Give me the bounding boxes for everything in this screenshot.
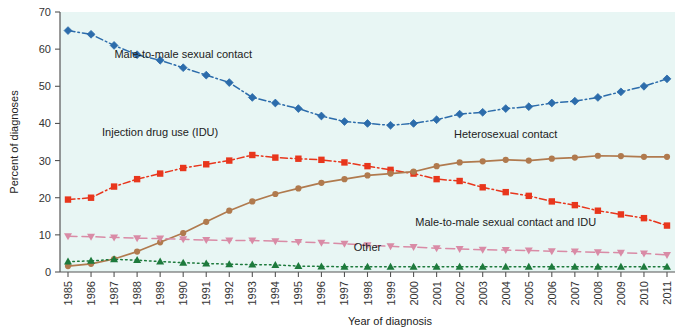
x-tick-label: 1997: [338, 281, 350, 305]
data-point-marker: [618, 153, 624, 159]
x-tick-label: 1991: [200, 281, 212, 305]
x-tick-label: 2005: [523, 281, 535, 305]
chart-figure: 010203040506070 198519861987198819891990…: [0, 0, 685, 331]
data-point-marker: [572, 202, 578, 208]
data-point-marker: [456, 178, 462, 184]
data-point-marker: [641, 154, 647, 160]
y-tick-label: 0: [45, 266, 51, 278]
data-point-marker: [479, 184, 485, 190]
x-tick-label: 2010: [638, 281, 650, 305]
x-tick-label: 2004: [500, 281, 512, 305]
data-point-marker: [549, 156, 555, 162]
data-point-marker: [641, 215, 647, 221]
x-tick-label: 1994: [269, 281, 281, 305]
x-tick-label: 1995: [292, 281, 304, 305]
data-point-marker: [203, 219, 209, 225]
y-tick-label: 10: [39, 229, 51, 241]
data-point-marker: [134, 176, 140, 182]
y-tick-label: 70: [39, 6, 51, 18]
data-point-marker: [134, 248, 140, 254]
series-label-0: Male-to-male sexual contact: [114, 48, 252, 60]
x-tick-label: 2009: [615, 281, 627, 305]
data-point-marker: [295, 156, 301, 162]
x-tick-label: 2011: [661, 281, 673, 305]
x-tick-label: 2002: [454, 281, 466, 305]
x-tick-label: 1989: [154, 281, 166, 305]
y-tick-label: 30: [39, 155, 51, 167]
data-point-marker: [318, 157, 324, 163]
data-point-marker: [503, 157, 509, 163]
data-point-marker: [572, 155, 578, 161]
series-label-4: Other: [354, 241, 382, 253]
data-point-marker: [226, 157, 232, 163]
data-point-marker: [526, 157, 532, 163]
data-point-marker: [272, 154, 278, 160]
data-point-marker: [664, 222, 670, 228]
data-point-marker: [457, 159, 463, 165]
x-tick-label: 2007: [569, 281, 581, 305]
line-chart-canvas: 010203040506070 198519861987198819891990…: [0, 0, 685, 331]
x-tick-label: 2001: [431, 281, 443, 305]
data-point-marker: [226, 208, 232, 214]
data-point-marker: [249, 152, 255, 158]
data-point-marker: [480, 158, 486, 164]
series-label-1: Injection drug use (IDU): [102, 126, 218, 138]
data-point-marker: [595, 208, 601, 214]
x-tick-label: 1987: [108, 281, 120, 305]
data-point-marker: [618, 211, 624, 217]
data-point-marker: [434, 163, 440, 169]
data-point-marker: [249, 198, 255, 204]
x-tick-label: 1990: [177, 281, 189, 305]
data-point-marker: [180, 230, 186, 236]
data-point-marker: [88, 195, 94, 201]
data-point-marker: [341, 159, 347, 165]
data-point-marker: [65, 196, 71, 202]
x-axis-title: Year of diagnosis: [348, 315, 432, 327]
data-point-marker: [180, 165, 186, 171]
data-point-marker: [410, 169, 416, 175]
x-tick-label: 1992: [223, 281, 235, 305]
data-point-marker: [549, 198, 555, 204]
data-point-marker: [157, 170, 163, 176]
data-point-marker: [433, 176, 439, 182]
series-label-2: Heterosexual contact: [454, 128, 557, 140]
x-tick-label: 2006: [546, 281, 558, 305]
data-point-marker: [272, 191, 278, 197]
data-point-marker: [203, 161, 209, 167]
y-tick-label: 40: [39, 117, 51, 129]
data-point-marker: [364, 163, 370, 169]
data-point-marker: [111, 183, 117, 189]
x-tick-label: 1985: [62, 281, 74, 305]
data-point-marker: [318, 180, 324, 186]
data-point-marker: [387, 170, 393, 176]
data-point-marker: [341, 176, 347, 182]
data-point-marker: [503, 189, 509, 195]
x-tick-label: 1998: [362, 281, 374, 305]
x-tick-label: 1996: [315, 281, 327, 305]
x-tick-label: 1986: [85, 281, 97, 305]
y-tick-label: 60: [39, 43, 51, 55]
data-point-marker: [595, 153, 601, 159]
x-tick-label: 2000: [408, 281, 420, 305]
data-point-marker: [526, 193, 532, 199]
y-tick-label: 20: [39, 192, 51, 204]
y-tick-label: 50: [39, 80, 51, 92]
series-label-3: Male-to-male sexual contact and IDU: [415, 216, 596, 228]
x-tick-label: 1993: [246, 281, 258, 305]
x-tick-label: 1999: [385, 281, 397, 305]
x-tick-label: 1988: [131, 281, 143, 305]
x-tick-label: 2008: [592, 281, 604, 305]
data-point-marker: [664, 154, 670, 160]
data-point-marker: [295, 185, 301, 191]
data-point-marker: [364, 172, 370, 178]
y-axis-title: Percent of diagnoses: [8, 90, 20, 194]
x-tick-label: 2003: [477, 281, 489, 305]
